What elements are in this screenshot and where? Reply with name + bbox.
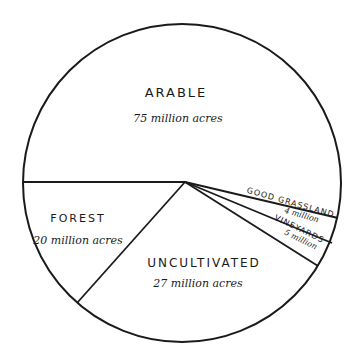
uncultivated-label: UNCULTIVATED — [147, 256, 261, 270]
slice-forest: FOREST 20 million acres — [32, 212, 123, 247]
arable-label: ARABLE — [145, 85, 208, 100]
forest-value: 20 million acres — [32, 234, 123, 247]
uncultivated-value: 27 million acres — [152, 277, 243, 290]
arable-value: 75 million acres — [133, 112, 223, 125]
forest-label: FOREST — [50, 212, 105, 225]
pie-chart: ARABLE 75 million acres FOREST 20 millio… — [0, 0, 361, 364]
slice-arable: ARABLE 75 million acres — [133, 85, 223, 125]
pie-outline — [23, 24, 341, 342]
slice-uncultivated: UNCULTIVATED 27 million acres — [147, 256, 261, 290]
